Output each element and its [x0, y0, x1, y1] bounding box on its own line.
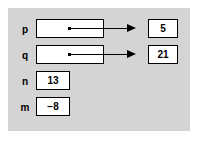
variable-value-n: 13: [37, 76, 69, 86]
target-box-p[interactable]: 5: [148, 19, 178, 38]
variable-label-m: m: [18, 103, 32, 113]
variable-label-q: q: [18, 51, 32, 61]
target-value-q: 21: [149, 50, 177, 60]
variable-label-n: n: [18, 77, 32, 87]
target-value-p: 5: [149, 24, 177, 34]
variable-label-p: p: [18, 25, 32, 35]
arrowhead-icon-p: [127, 24, 136, 32]
variable-box-m[interactable]: −8: [36, 97, 70, 116]
variable-value-m: −8: [37, 102, 69, 112]
target-box-q[interactable]: 21: [148, 45, 178, 64]
diagram-canvas: p 5 q 21 n 13 m −8: [0, 0, 204, 141]
variable-box-n[interactable]: 13: [36, 71, 70, 90]
pointer-line-q: [70, 54, 127, 55]
arrowhead-icon-q: [127, 50, 136, 58]
pointer-line-p: [70, 28, 127, 29]
